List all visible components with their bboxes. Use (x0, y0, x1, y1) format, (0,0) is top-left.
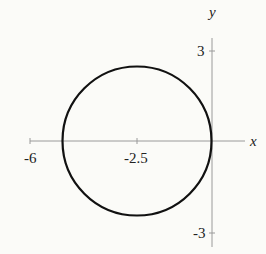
diagram-svg: x y -6 -2.5 3 -3 (0, 0, 266, 254)
y-axis-label: y (207, 4, 216, 20)
y-tick-label-3: 3 (197, 43, 205, 59)
y-tick-label-neg3: -3 (193, 225, 206, 241)
x-tick-label-neg6: -6 (24, 150, 37, 166)
x-axis-label: x (249, 133, 257, 149)
circle-diagram: x y -6 -2.5 3 -3 (0, 0, 266, 254)
x-tick-label-neg2-5: -2.5 (124, 150, 148, 166)
